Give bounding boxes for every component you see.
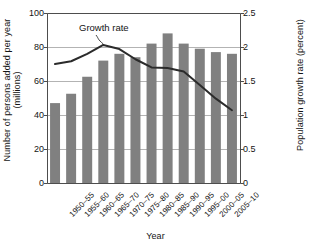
bar-1955-60 (66, 94, 76, 183)
bar-2000-05 (211, 52, 221, 183)
bar-1950-55 (50, 103, 60, 183)
bar-1965-70 (98, 61, 108, 183)
bar-series (50, 33, 237, 183)
bar-1995-00 (195, 49, 205, 183)
bar-1975-80 (130, 57, 140, 183)
bar-1970-75 (114, 54, 124, 183)
bar-1960-65 (82, 77, 92, 183)
growth-rate-line (55, 45, 232, 110)
bar-1980-85 (147, 44, 157, 183)
bar-1985-90 (163, 33, 173, 183)
chart-figure: Number of persons added per year (millio… (0, 0, 311, 247)
bar-2005-10 (227, 54, 237, 183)
annotation-leader-line (96, 35, 103, 44)
plot-area (0, 0, 311, 247)
bar-1990-95 (179, 44, 189, 183)
